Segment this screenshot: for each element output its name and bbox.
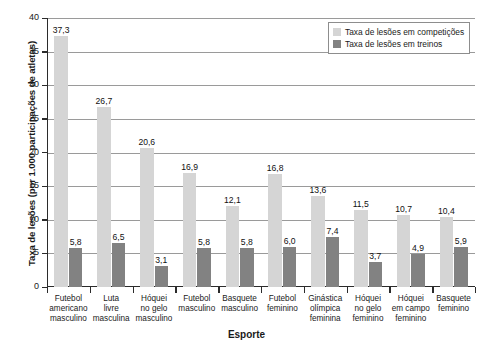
legend-label-treinos: Taxa de lesões em treinos — [345, 39, 442, 49]
bar-value-label: 16,8 — [267, 163, 284, 173]
x-category-label: Lutalivremasculina — [90, 294, 133, 325]
injury-rate-bar-chart: Taxa de lesões (por 1.000 participações … — [0, 0, 493, 349]
x-category-label: Hóqueiem campofeminino — [389, 294, 432, 325]
bar-group: 11,53,7 — [354, 18, 382, 287]
y-tick-label: 30 — [29, 79, 39, 89]
bar-comp: 20,6 — [140, 148, 154, 287]
x-category-line: em campo — [389, 304, 432, 314]
x-category-line: livre — [90, 304, 133, 314]
y-tick-label: 40 — [29, 12, 39, 22]
bar-comp: 11,5 — [354, 210, 368, 287]
bar-comp: 37,3 — [54, 36, 68, 287]
bar-value-label: 13,6 — [310, 185, 327, 195]
x-category-line: Basquete — [218, 294, 261, 304]
legend-swatch-icon-competicoes — [333, 28, 341, 36]
bar-value-label: 5,8 — [70, 237, 82, 247]
bar-group: 37,35,8 — [54, 18, 82, 287]
bar-value-label: 5,8 — [198, 237, 210, 247]
y-tick-label: 15 — [29, 180, 39, 190]
x-category-line: feminina — [304, 314, 347, 324]
x-axis-title: Esporte — [0, 329, 493, 340]
bar-comp: 16,9 — [183, 173, 197, 287]
x-category-line: Futebol — [261, 294, 304, 304]
x-axis-tick — [175, 287, 176, 293]
x-category-line: masculino — [47, 314, 90, 324]
x-category-line: Hóquei — [347, 294, 390, 304]
bar-trn: 7,4 — [326, 237, 340, 287]
x-category-label: Futebolfeminino — [261, 294, 304, 314]
bar-value-label: 6,5 — [112, 232, 124, 242]
bar-value-label: 6,0 — [284, 236, 296, 246]
x-category-line: no gelo — [347, 304, 390, 314]
bar-comp: 10,7 — [397, 215, 411, 287]
bar-value-label: 20,6 — [138, 137, 155, 147]
legend: Taxa de lesões em competições Taxa de le… — [328, 22, 470, 54]
bar-group: 16,95,8 — [183, 18, 211, 287]
x-category-line: Futebol — [175, 294, 218, 304]
bar-value-label: 37,3 — [53, 25, 70, 35]
y-tick-label: 10 — [29, 214, 39, 224]
bar-value-label: 4,9 — [412, 243, 424, 253]
bar-group: 20,63,1 — [140, 18, 168, 287]
x-category-line: feminino — [389, 314, 432, 324]
x-category-line: masculino — [133, 314, 176, 324]
x-category-line: olímpica — [304, 304, 347, 314]
bar-value-label: 3,1 — [155, 255, 167, 265]
x-category-label: Basquetemasculino — [218, 294, 261, 314]
bar-value-label: 12,1 — [224, 195, 241, 205]
x-axis-tick — [389, 287, 390, 293]
bar-value-label: 5,9 — [455, 236, 467, 246]
x-category-line: Luta — [90, 294, 133, 304]
x-category-label: Basquetefeminino — [432, 294, 475, 314]
bar-trn: 5,8 — [197, 248, 211, 287]
x-category-label: Ginásticaolímpicafeminina — [304, 294, 347, 325]
bar-value-label: 7,4 — [326, 226, 338, 236]
y-tick-label: 0 — [34, 281, 39, 291]
y-tick-label: 20 — [29, 147, 39, 157]
x-category-line: feminino — [347, 314, 390, 324]
bar-group: 10,74,9 — [397, 18, 425, 287]
bar-trn: 4,9 — [411, 254, 425, 287]
x-category-line: Hóquei — [133, 294, 176, 304]
x-category-line: Hóquei — [389, 294, 432, 304]
x-axis-tick — [218, 287, 219, 293]
x-axis-tick — [475, 287, 476, 293]
bar-group: 12,15,8 — [226, 18, 254, 287]
bar-comp: 10,4 — [440, 217, 454, 287]
x-category-label: Futebolamericanomasculino — [47, 294, 90, 325]
bar-value-label: 16,9 — [181, 162, 198, 172]
x-axis-tick — [133, 287, 134, 293]
x-axis-tick — [304, 287, 305, 293]
bar-value-label: 10,4 — [438, 206, 455, 216]
bar-comp: 26,7 — [97, 107, 111, 287]
y-tick-label: 5 — [34, 247, 39, 257]
bar-group: 16,86,0 — [268, 18, 296, 287]
x-axis-tick — [261, 287, 262, 293]
x-category-line: masculino — [218, 304, 261, 314]
x-axis-tick — [47, 287, 48, 293]
bar-value-label: 11,5 — [353, 199, 369, 209]
bar-value-label: 10,7 — [395, 204, 412, 214]
bar-comp: 13,6 — [311, 196, 325, 287]
x-category-line: no gelo — [133, 304, 176, 314]
bar-trn: 6,0 — [283, 247, 297, 287]
bar-trn: 6,5 — [112, 243, 126, 287]
bar-group: 13,67,4 — [311, 18, 339, 287]
bar-trn: 5,8 — [240, 248, 254, 287]
legend-swatch-icon-treinos — [333, 40, 341, 48]
x-category-line: Futebol — [47, 294, 90, 304]
bar-group: 10,45,9 — [440, 18, 468, 287]
x-category-label: Hóqueino gelomasculino — [133, 294, 176, 325]
x-axis-category-labels: FutebolamericanomasculinoLutalivremascul… — [47, 294, 475, 334]
legend-label-competicoes: Taxa de lesões em competições — [345, 27, 464, 37]
x-category-line: Basquete — [432, 294, 475, 304]
bar-groups: 37,35,826,76,520,63,116,95,812,15,816,86… — [47, 18, 475, 287]
y-tick-label: 25 — [29, 113, 39, 123]
bar-value-label: 26,7 — [96, 96, 113, 106]
bar-value-label: 3,7 — [369, 251, 381, 261]
legend-item-competicoes: Taxa de lesões em competições — [333, 26, 464, 38]
x-category-line: Ginástica — [304, 294, 347, 304]
x-category-line: feminino — [432, 304, 475, 314]
x-category-line: masculina — [90, 314, 133, 324]
bar-trn: 3,7 — [369, 262, 383, 287]
